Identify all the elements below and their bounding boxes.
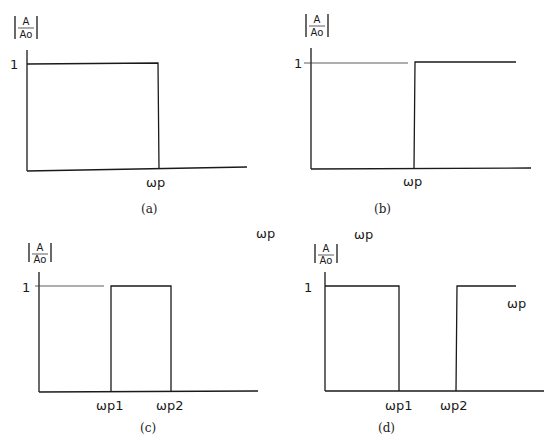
svg-text:A: A xyxy=(23,16,30,27)
ylabel-c: A Ao xyxy=(29,242,51,265)
ylabel-d: A Ao xyxy=(315,243,337,266)
stray-label-2: ωp xyxy=(354,227,373,242)
caption-a: (a) xyxy=(141,202,158,216)
x-label-d-2: ωp2 xyxy=(440,398,467,413)
panel-a: A Ao 1 ωp (a) xyxy=(10,16,247,216)
svg-text:A: A xyxy=(323,243,330,254)
panel-d: ωp A Ao 1 ωp ωp1 ωp2 (d) xyxy=(304,227,544,435)
x-label-d-1: ωp1 xyxy=(385,398,412,413)
ylabel-b: A Ao xyxy=(306,14,328,38)
svg-text:A: A xyxy=(37,242,44,253)
y-tick-c: 1 xyxy=(22,280,30,295)
svg-text:Ao: Ao xyxy=(20,29,33,40)
caption-d: (d) xyxy=(378,421,395,435)
stray-label-1: ωp xyxy=(256,226,275,241)
y-tick-b: 1 xyxy=(294,56,302,71)
stray-label-3: ωp xyxy=(507,296,526,311)
ylabel-a: A Ao xyxy=(15,16,37,40)
caption-b: (b) xyxy=(374,202,391,216)
y-tick-d: 1 xyxy=(304,280,312,295)
svg-text:Ao: Ao xyxy=(34,254,47,265)
x-label-c-1: ωp1 xyxy=(96,398,123,413)
filter-responses-figure: A Ao 1 ωp (a) A Ao 1 ωp (b) ωp xyxy=(0,0,551,444)
y-tick-a: 1 xyxy=(10,57,18,72)
svg-text:Ao: Ao xyxy=(320,255,333,266)
svg-text:A: A xyxy=(314,14,321,25)
panel-b: A Ao 1 ωp (b) xyxy=(294,14,531,216)
x-label-b: ωp xyxy=(403,174,422,189)
svg-text:Ao: Ao xyxy=(311,27,324,38)
caption-c: (c) xyxy=(140,421,156,435)
x-label-c-2: ωp2 xyxy=(156,398,183,413)
panel-c: ωp A Ao 1 ωp1 ωp2 (c) xyxy=(22,226,275,435)
x-label-a: ωp xyxy=(146,175,165,190)
